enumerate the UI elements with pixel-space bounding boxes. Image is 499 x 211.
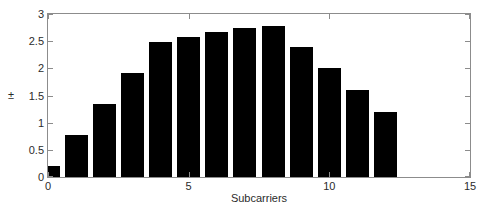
x-tick-mark (48, 172, 49, 177)
y-tick-mark (48, 41, 53, 42)
bar (318, 68, 341, 177)
x-tick-mark-top (469, 14, 470, 19)
y-tick-mark (48, 150, 53, 151)
plot-axes-frame: 00.511.522.53 051015 (47, 13, 471, 178)
y-tick-label: 1 (38, 117, 44, 128)
y-tick-mark (48, 68, 53, 69)
plot-area (48, 14, 470, 177)
bar (93, 104, 116, 177)
x-tick-mark (469, 172, 470, 177)
y-tick-label: 3 (38, 9, 44, 20)
y-tick-mark-right (465, 96, 470, 97)
bar (65, 135, 88, 177)
bar (262, 26, 285, 177)
y-tick-label: 0.5 (29, 144, 44, 155)
x-tick-label: 5 (186, 181, 192, 192)
bar (290, 47, 313, 177)
x-axis-label: Subcarriers (47, 193, 471, 204)
bar-chart-figure: 00.511.522.53 051015 ± Subcarriers (0, 0, 499, 211)
x-tick-mark (189, 172, 190, 177)
bar (149, 42, 172, 177)
x-tick-mark (329, 172, 330, 177)
bar (374, 112, 397, 177)
x-tick-label: 10 (323, 181, 335, 192)
bar (346, 90, 369, 177)
y-tick-mark-right (465, 41, 470, 42)
y-tick-label: 2 (38, 63, 44, 74)
y-tick-mark (48, 96, 53, 97)
x-tick-mark-top (329, 14, 330, 19)
y-tick-mark-right (465, 68, 470, 69)
bar (205, 32, 228, 177)
y-tick-mark (48, 123, 53, 124)
y-tick-label: 2.5 (29, 36, 44, 47)
bar (121, 73, 144, 177)
x-tick-label: 15 (464, 181, 476, 192)
y-tick-label: 0 (38, 172, 44, 183)
x-tick-mark-top (48, 14, 49, 19)
y-axis-label: ± (8, 90, 14, 101)
y-tick-mark-right (465, 123, 470, 124)
bar (177, 37, 200, 177)
y-tick-mark-right (465, 150, 470, 151)
x-tick-label: 0 (45, 181, 51, 192)
y-tick-label: 1.5 (29, 90, 44, 101)
bar (233, 28, 256, 177)
x-tick-mark-top (189, 14, 190, 19)
